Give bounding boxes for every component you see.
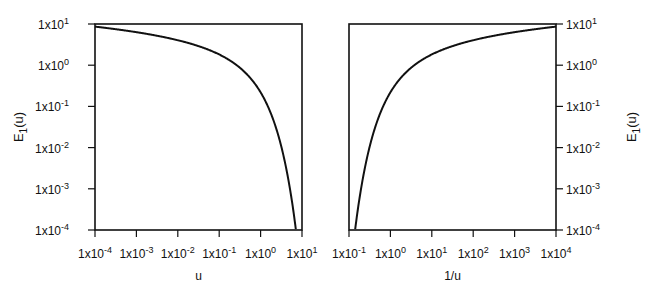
x-tick-label: 1x10-4 — [78, 245, 112, 261]
y-tick-label: 1x101 — [566, 16, 597, 32]
y-tick-label: 1x10-3 — [566, 181, 600, 197]
x-axis-label: 1/u — [444, 269, 461, 283]
y-tick-label: 1x10-2 — [35, 140, 69, 156]
right-plot: 1x10-11x1001x1011x1021x1031x1041x1011x10… — [332, 16, 642, 283]
y-axis-label: E1(u) — [624, 112, 642, 142]
y-tick-label: 1x100 — [38, 57, 69, 73]
x-tick-label: 1x101 — [286, 245, 317, 261]
y-tick-label: 1x100 — [566, 57, 597, 73]
x-tick-label: 1x101 — [416, 245, 447, 261]
left-plot: 1x10-41x10-31x10-21x10-11x1001x1011x1011… — [11, 16, 318, 283]
e1-curve — [95, 27, 296, 229]
x-tick-label: 1x103 — [499, 245, 530, 261]
y-tick-label: 1x10-3 — [35, 181, 69, 197]
x-tick-label: 1x10-2 — [161, 245, 195, 261]
y-tick-label: 1x101 — [38, 16, 69, 32]
y-axis-label: E1(u) — [11, 112, 29, 142]
x-tick-label: 1x100 — [245, 245, 276, 261]
chart-canvas: 1x10-41x10-31x10-21x10-11x1001x1011x1011… — [0, 0, 658, 297]
y-tick-label: 1x10-4 — [35, 222, 69, 238]
y-tick-label: 1x10-2 — [566, 140, 600, 156]
y-tick-label: 1x10-4 — [566, 222, 600, 238]
x-axis-label: u — [195, 269, 202, 283]
plot-frame — [349, 24, 556, 230]
y-tick-label: 1x10-1 — [566, 98, 600, 114]
x-tick-label: 1x10-3 — [119, 245, 153, 261]
x-tick-label: 1x10-1 — [332, 245, 366, 261]
plot-frame — [95, 24, 302, 230]
x-tick-label: 1x100 — [375, 245, 406, 261]
y-tick-label: 1x10-1 — [35, 98, 69, 114]
x-tick-label: 1x102 — [458, 245, 489, 261]
x-tick-label: 1x10-1 — [202, 245, 236, 261]
e1-curve — [355, 27, 556, 229]
x-tick-label: 1x104 — [540, 245, 571, 261]
